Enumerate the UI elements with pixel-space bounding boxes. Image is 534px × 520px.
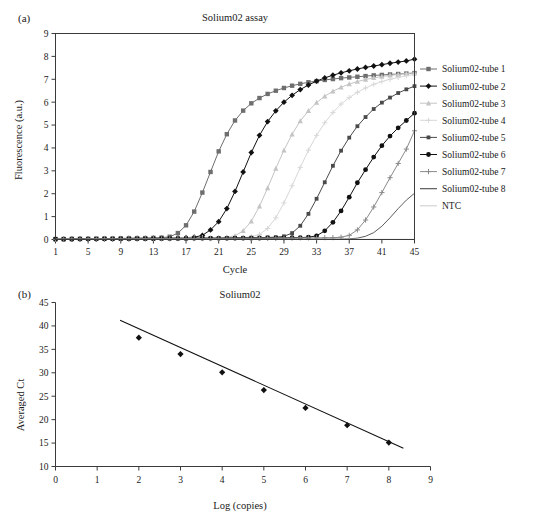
panel-a-xtick: 37 [344,247,354,257]
panel-a-xtick: 17 [181,247,191,257]
panel-b-label: (b) [18,288,31,301]
panel-a-plot-frame [56,34,415,240]
legend-item[interactable]: Solium02-tube 8 [420,184,506,194]
panel-b-ytick: 35 [39,345,49,355]
curve-series [56,193,415,239]
curve-series [53,111,417,242]
data-point [261,387,267,393]
panel-a-ytick: 1 [44,212,49,222]
legend-label: Solium02-tube 3 [442,99,506,109]
legend-label: Solium02-tube 7 [442,167,506,177]
panel-b-title: Solium02 [220,289,261,300]
legend-label: Solium02-tube 5 [442,133,506,143]
legend-label: Solium02-tube 4 [442,116,506,126]
legend-item[interactable]: Solium02-tube 4 [420,116,506,126]
curve-series [53,70,417,241]
panel-b-ytick: 45 [39,298,49,308]
panel-a-ytick: 5 [44,120,49,130]
panel-b-svg: (b) Solium02 Averaged Ct Log (copies) 10… [0,280,534,520]
panel-b-xtick: 9 [428,475,433,485]
legend-label: Solium02-tube 6 [442,150,506,160]
panel-a-xlabel: Cycle [223,264,248,275]
panel-a-xtick: 9 [118,247,123,257]
data-point [344,422,350,428]
legend-label: Solium02-tube 1 [442,64,506,74]
panel-a-ytick: 7 [44,75,49,85]
panel-b-xtick: 7 [345,475,350,485]
panel-a-ytick: 6 [44,98,49,108]
panel-b-ytick: 10 [39,462,49,472]
panel-a-label: (a) [18,12,31,25]
data-point [302,405,308,411]
panel-b-ytick: 30 [39,368,49,378]
panel-b-xtick: 2 [136,475,141,485]
panel-b-xtick: 6 [303,475,308,485]
panel-a-xtick: 5 [86,247,91,257]
legend-label: Solium02-tube 2 [442,82,506,92]
legend-label: Solium02-tube 8 [442,184,506,194]
panel-b-xtick: 0 [53,475,58,485]
panel-a-ytick: 4 [44,143,49,153]
panel-a-ytick: 9 [44,29,49,39]
curve-series [53,71,416,241]
panel-b-ytick: 20 [39,415,49,425]
panel-b-ytick: 25 [39,392,49,402]
figure-container: (a) Solium02 assay Fluorescence (a.u.) C… [0,0,534,520]
legend-item[interactable]: Solium02-tube 1 [420,64,506,74]
panel-a-xtick: 21 [214,247,224,257]
panel-b-xtick: 4 [220,475,225,485]
panel-a-ytick: 0 [44,235,49,245]
panel-a-svg: (a) Solium02 assay Fluorescence (a.u.) C… [0,0,534,280]
panel-b-standard-curve-plot: (b) Solium02 Averaged Ct Log (copies) 10… [0,280,534,520]
panel-b-ytick: 40 [39,321,49,331]
panel-a-ylabel: Fluorescence (a.u.) [13,99,25,180]
legend-item[interactable]: Solium02-tube 7 [420,167,506,177]
legend-item[interactable]: Solium02-tube 2 [420,82,506,92]
curve-series [53,72,417,242]
legend-item[interactable]: Solium02-tube 3 [420,99,506,109]
legend-item[interactable]: Solium02-tube 6 [420,150,506,160]
curve-series [53,56,418,242]
panel-a-legend: Solium02-tube 1Solium02-tube 2Solium02-t… [420,64,506,211]
data-point [177,351,183,357]
panel-b-ylabel: Averaged Ct [15,379,26,432]
data-point [219,369,225,375]
panel-a-xtick: 1 [53,247,58,257]
panel-a-ytick: 8 [44,52,49,62]
panel-b-xtick: 5 [261,475,266,485]
legend-item[interactable]: Solium02-tube 5 [420,133,506,143]
panel-a-ytick: 2 [44,189,49,199]
panel-a-amplification-plot: (a) Solium02 assay Fluorescence (a.u.) C… [0,0,534,280]
panel-a-xtick: 33 [312,247,322,257]
panel-b-xtick: 3 [178,475,183,485]
panel-a-xtick: 45 [410,247,420,257]
legend-label: NTC [442,201,461,211]
panel-b-ticks: 10152025303540450123456789 [39,298,433,485]
panel-b-xtick: 1 [95,475,100,485]
panel-b-xlabel: Log (copies) [213,500,267,512]
panel-b-xtick: 8 [386,475,391,485]
panel-a-xtick: 25 [247,247,257,257]
panel-a-xtick: 41 [377,247,387,257]
curve-series [54,84,417,241]
panel-a-curves [53,56,418,242]
panel-a-ytick: 3 [44,166,49,176]
panel-b-ytick: 15 [39,438,49,448]
panel-a-xtick: 29 [279,247,289,257]
panel-a-xtick: 13 [149,247,159,257]
panel-a-title: Solium02 assay [202,12,269,23]
panel-b-data [120,320,403,448]
data-point [136,335,142,341]
curve-series [53,128,417,242]
legend-item[interactable]: NTC [420,201,461,211]
